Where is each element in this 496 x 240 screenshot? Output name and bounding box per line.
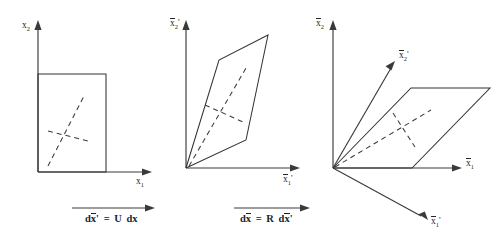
caption-rotate-label: dx = R dx'	[240, 214, 293, 225]
panel-reference-shape	[38, 74, 106, 172]
panel1-horizontal-axis-arrowhead	[142, 168, 152, 175]
overbar-glyph	[246, 213, 251, 214]
panel3-diag-down-axis-label: x1'	[431, 216, 441, 228]
panel3-horizontal-axis-arrowhead	[452, 164, 462, 171]
stretched-fiber-major	[189, 68, 246, 166]
rotated-fiber-major	[335, 110, 431, 167]
panel1-horizontal-axis-label: x1	[136, 176, 144, 188]
panel2-horizontal-axis-label: x1'	[283, 174, 293, 186]
reference-fiber-major	[48, 96, 84, 166]
caption-rotate-arrow	[234, 205, 310, 212]
overbar-glyph	[170, 18, 175, 19]
panel-rotated-axes	[329, 20, 462, 220]
panel2-vertical-axis-arrowhead	[182, 20, 189, 30]
overbar-glyph	[316, 18, 321, 19]
caption2-arrow-head	[300, 205, 310, 212]
overbar-glyph	[431, 216, 436, 217]
figure-vector-graphics	[0, 0, 496, 240]
panel2-horizontal-axis-arrowhead	[290, 164, 300, 171]
reference-fiber-minor	[48, 131, 88, 141]
caption1-arrow-head	[145, 205, 155, 212]
overbar-glyph	[91, 213, 96, 214]
panel3-diag-up-arrowhead	[386, 61, 396, 71]
stretched-fiber-minor	[205, 105, 243, 122]
panel3-diag-down-axis	[333, 168, 421, 216]
panel-stretched-shape	[186, 35, 268, 168]
overbar-glyph	[283, 174, 288, 175]
panel-reference-axes	[34, 20, 152, 176]
panel3-diag-up-axis-label: x2'	[399, 50, 409, 62]
panel1-vertical-axis-label: x2	[22, 20, 30, 32]
caption-stretch-arrow	[72, 205, 155, 212]
reference-rectangle	[38, 74, 106, 172]
panel1-vertical-axis-arrowhead	[34, 20, 41, 30]
rotated-fiber-minor	[393, 113, 415, 147]
deformation-decomposition-figure: x2 x1 x2' x1' x2 x2' x1 x1' dx' = U dx d…	[0, 0, 496, 240]
overbar-glyph	[284, 213, 289, 214]
overbar-glyph	[399, 50, 404, 51]
panel2-vertical-axis-label: x2'	[170, 18, 180, 30]
caption-stretch-label: dx' = U dx	[85, 214, 138, 225]
panel3-horizontal-axis-label: x1	[466, 158, 474, 170]
overbar-glyph	[466, 158, 471, 159]
panel-stretched-axes	[182, 20, 300, 172]
panel3-vertical-axis-arrowhead	[329, 20, 336, 30]
panel3-vertical-axis-label: x2	[316, 18, 324, 30]
